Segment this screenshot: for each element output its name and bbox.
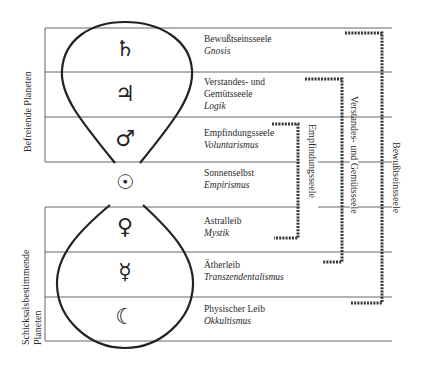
row-title: Sonnenselbst [204, 167, 254, 179]
row-title: Bewußtseinsseele [204, 33, 272, 45]
saturn-icon: ♄ [110, 36, 140, 61]
jupiter-icon: ♃ [110, 81, 140, 106]
row-aetherleib: Ätherleib Transzendentalismus [204, 259, 284, 283]
mars-icon: ♂ [110, 126, 140, 151]
bracket-label-empfindungsseele: Empfindungsseele [307, 124, 318, 198]
row-subtitle: Empirismus [204, 179, 254, 191]
row-empfindungsseele: Empfindungsseele Voluntarismus [204, 127, 274, 151]
bracket-label-verstandes: Verstandes- und Gemütsseele [349, 96, 360, 214]
row-subtitle: Logik [204, 100, 265, 112]
row-bewusstseinsseele: Bewußtseinsseele Gnosis [204, 33, 272, 57]
mercury-icon: ☿ [110, 259, 140, 284]
sun-icon: ☉ [110, 170, 140, 194]
row-sonnenselbst: Sonnenselbst Empirismus [204, 167, 254, 191]
row-subtitle: Mystik [204, 227, 241, 239]
label-schicksalsbestimmende: Schicksalsbestimmende [20, 249, 31, 345]
label-befreiende-planeten: Befreiende Planeten [22, 71, 33, 152]
row-astralleib: Astralleib Mystik [204, 215, 241, 239]
row-subtitle: Voluntarismus [204, 139, 274, 151]
row-physischer-leib: Physischer Leib Okkultismus [204, 303, 265, 327]
row-title: Astralleib [204, 215, 241, 227]
moon-icon: ☾ [110, 304, 140, 329]
venus-icon: ♀ [110, 214, 140, 239]
row-subtitle: Transzendentalismus [204, 271, 284, 283]
row-verstandes: Verstandes- und Gemütsseele Logik [204, 76, 265, 112]
row-title: Empfindungsseele [204, 127, 274, 139]
row-subtitle: Okkultismus [204, 315, 265, 327]
row-title: Physischer Leib [204, 303, 265, 315]
row-subtitle: Gnosis [204, 45, 272, 57]
bracket-label-bewusstseinsseele: Bewußtseinsseele [391, 142, 402, 213]
bracket-empfindungsseele [272, 124, 298, 238]
label-planeten: Planeten [32, 311, 43, 345]
row-title: Verstandes- und [204, 76, 265, 88]
row-title-line2: Gemütsseele [204, 88, 265, 100]
row-title: Ätherleib [204, 259, 284, 271]
